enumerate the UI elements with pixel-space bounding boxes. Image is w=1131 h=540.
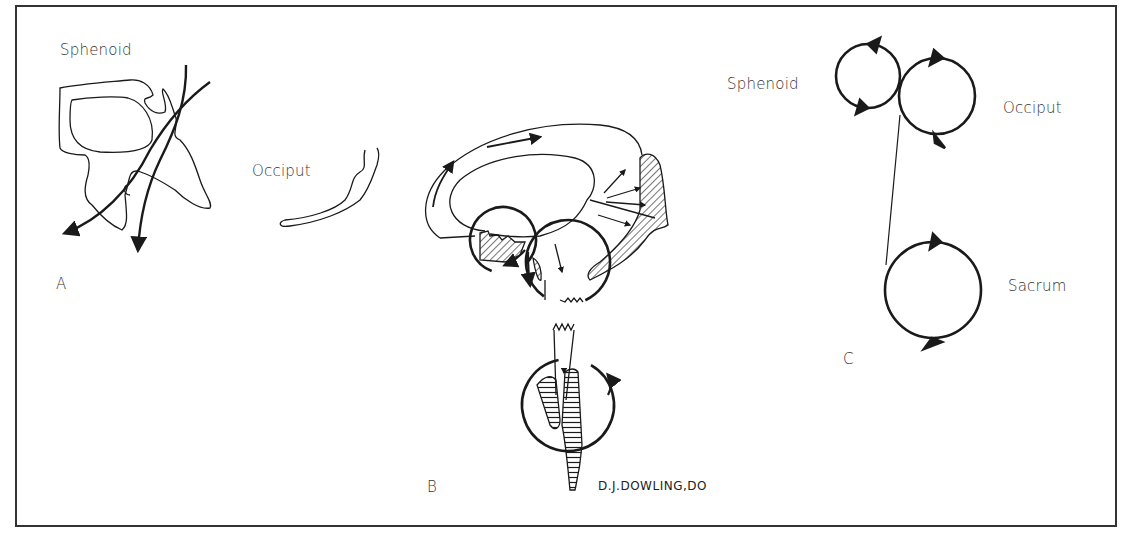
panel-c-occiput-label: Occiput	[1003, 99, 1062, 117]
panel-a-drawing	[59, 65, 379, 250]
sacrum-hatched	[537, 377, 560, 429]
figure-drawing	[0, 0, 1131, 540]
panel-b-drawing	[426, 124, 668, 490]
panel-c-letter: C	[843, 350, 853, 368]
sphenoid-sinus-outline	[70, 97, 152, 152]
panel-c-drawing	[836, 38, 981, 349]
panel-a-occiput-label: Occiput	[252, 162, 311, 180]
panel-c-sphenoid-label: Sphenoid	[727, 75, 799, 93]
panel-a-sphenoid-label: Sphenoid	[60, 41, 132, 59]
c-occiput-circle	[899, 58, 975, 134]
c-sacrum-circle	[885, 242, 981, 338]
tentorium-hatched	[588, 154, 668, 280]
artist-signature: D.J.DOWLING,DO	[598, 479, 707, 493]
panel-a-letter: A	[56, 275, 66, 293]
c-connecting-line	[886, 115, 900, 265]
ventricle-outline	[450, 154, 595, 236]
panel-c-sacrum-label: Sacrum	[1008, 277, 1066, 295]
panel-b-letter: B	[427, 478, 437, 496]
c-sphenoid-circle	[836, 44, 900, 108]
occiput-bone-outline	[280, 148, 379, 226]
